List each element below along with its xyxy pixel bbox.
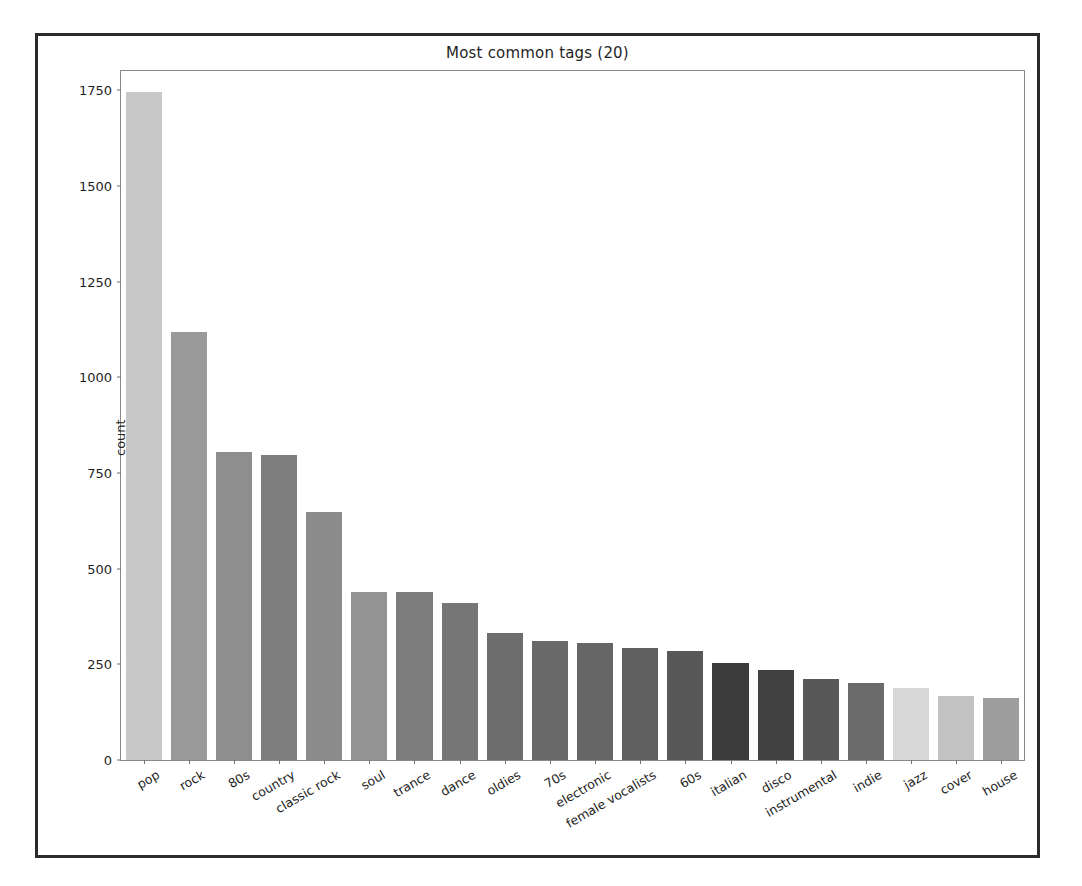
bar-classic-rock[interactable] <box>306 512 342 760</box>
chart-title: Most common tags (20) <box>38 44 1037 62</box>
bar-jazz[interactable] <box>893 688 929 760</box>
bar-rock[interactable] <box>171 332 207 760</box>
bar-trance[interactable] <box>396 592 432 760</box>
bar-instrumental[interactable] <box>803 679 839 760</box>
bar-dance[interactable] <box>442 603 478 760</box>
y-tick-label: 750 <box>87 465 121 480</box>
bar-country[interactable] <box>261 455 297 760</box>
bar-series <box>121 71 1024 760</box>
bar-oldies[interactable] <box>487 633 523 760</box>
y-tick-label: 1000 <box>79 370 121 385</box>
bar-cover[interactable] <box>938 696 974 760</box>
y-tick-label: 500 <box>87 561 121 576</box>
y-tick-label: 250 <box>87 657 121 672</box>
bar-disco[interactable] <box>758 670 794 760</box>
bar-soul[interactable] <box>351 592 387 760</box>
y-tick-label: 1750 <box>79 83 121 98</box>
y-tick-label: 1500 <box>79 178 121 193</box>
bar-house[interactable] <box>983 698 1019 760</box>
figure-frame: Most common tags (20) count 025050075010… <box>35 33 1040 858</box>
bar-electronic[interactable] <box>577 643 613 761</box>
bar-70s[interactable] <box>532 641 568 760</box>
bar-italian[interactable] <box>712 663 748 760</box>
y-tick-label: 1250 <box>79 274 121 289</box>
bar-female-vocalists[interactable] <box>622 648 658 760</box>
x-axis-labels: poprock80scountryclassic rocksoultranced… <box>120 761 1025 861</box>
bar-80s[interactable] <box>216 452 252 760</box>
bar-pop[interactable] <box>126 92 162 760</box>
bar-indie[interactable] <box>848 683 884 760</box>
bar-60s[interactable] <box>667 651 703 760</box>
plot-area: count 02505007501000125015001750 <box>120 70 1025 761</box>
bar-chart: Most common tags (20) count 025050075010… <box>38 36 1037 855</box>
